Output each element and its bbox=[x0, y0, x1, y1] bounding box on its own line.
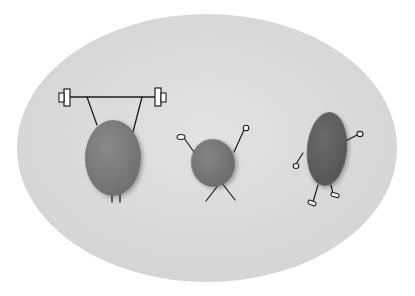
scene bbox=[0, 0, 415, 296]
weightlifter-pebble bbox=[85, 120, 141, 196]
